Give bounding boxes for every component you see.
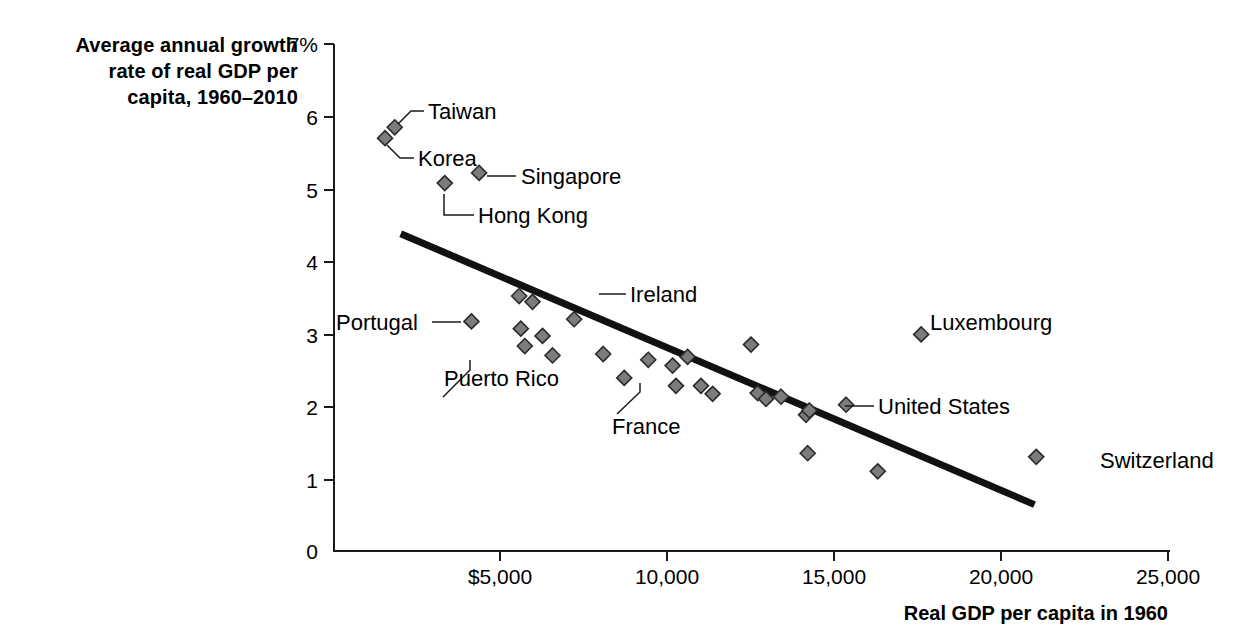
y-axis-tick-labels: 7% 6 5 4 3 2 1 0	[288, 33, 319, 563]
y-tick-label-1: 1	[306, 469, 318, 492]
point-label-taiwan: Taiwan	[428, 99, 496, 124]
y-tick-label-6: 6	[306, 106, 318, 129]
scatter-plot: 7% 6 5 4 3 2 1 0 $5,000 10,000 15,000 20…	[0, 0, 1255, 639]
data-point-korea	[378, 131, 393, 146]
point-label-united-states: United States	[878, 394, 1010, 419]
x-tick-label-5000: $5,000	[468, 565, 532, 588]
data-point	[641, 352, 656, 367]
data-point	[870, 464, 885, 479]
point-label-luxembourg: Luxembourg	[930, 310, 1052, 335]
y-tick-label-4: 4	[306, 251, 318, 274]
point-label-hong-kong: Hong Kong	[478, 203, 588, 228]
data-point-luxembourg	[914, 327, 929, 342]
data-markers	[378, 120, 1044, 479]
data-point	[693, 378, 708, 393]
x-tick-label-20000: 20,000	[969, 565, 1033, 588]
data-point	[535, 328, 550, 343]
data-point-hong-kong	[437, 176, 452, 191]
point-label-puerto-rico: Puerto Rico	[444, 366, 559, 391]
point-label-singapore: Singapore	[521, 164, 621, 189]
leader-taiwan	[398, 111, 424, 124]
point-label-korea: Korea	[418, 146, 477, 171]
data-point	[513, 321, 528, 336]
point-label-portugal: Portugal	[336, 310, 418, 335]
y-tick-label-0: 0	[306, 540, 318, 563]
data-point-portugal	[464, 314, 479, 329]
data-point-switzerland	[1029, 449, 1044, 464]
chart-page: Average annual growth rate of real GDP p…	[0, 0, 1255, 639]
leader-hong-kong	[444, 194, 474, 215]
x-axis-tick-labels: $5,000 10,000 15,000 20,000 25,000	[468, 565, 1200, 588]
y-axis-ticks	[324, 44, 334, 480]
data-point-ireland	[567, 312, 582, 327]
data-point	[525, 294, 540, 309]
data-point	[545, 348, 560, 363]
data-point-united-states	[839, 397, 854, 412]
point-label-ireland: Ireland	[630, 282, 697, 307]
x-axis-ticks	[500, 551, 1168, 561]
x-tick-label-15000: 15,000	[802, 565, 866, 588]
data-point	[800, 446, 815, 461]
point-labels: Taiwan Korea Singapore Hong Kong Portuga…	[336, 99, 1214, 473]
leader-france	[617, 383, 640, 414]
y-tick-label-5: 5	[306, 179, 318, 202]
leader-korea	[387, 145, 414, 158]
x-axis-title: Real GDP per capita in 1960	[904, 602, 1168, 624]
point-label-switzerland: Switzerland	[1100, 448, 1214, 473]
data-point	[665, 358, 680, 373]
x-tick-label-25000: 25,000	[1136, 565, 1200, 588]
y-tick-label-2: 2	[306, 396, 318, 419]
x-tick-label-10000: 10,000	[635, 565, 699, 588]
data-point	[617, 370, 632, 385]
data-point-france	[668, 378, 683, 393]
data-point	[744, 337, 759, 352]
data-point	[705, 386, 720, 401]
point-label-france: France	[612, 414, 680, 439]
y-tick-label-3: 3	[306, 324, 318, 347]
y-tick-label-7: 7%	[288, 33, 318, 56]
data-point	[512, 289, 527, 304]
data-point	[596, 346, 611, 361]
data-point-puerto-rico	[517, 339, 532, 354]
